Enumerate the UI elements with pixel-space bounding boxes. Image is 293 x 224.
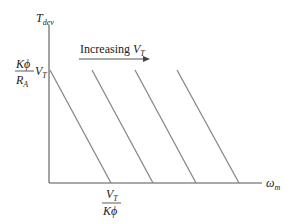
x-intercept-label: VT Kϕ	[102, 187, 121, 218]
svg-text:Kϕ: Kϕ	[15, 57, 30, 71]
svg-text:RA: RA	[15, 73, 28, 89]
annotation-label: Increasing VT	[80, 42, 145, 58]
svg-text:Kϕ: Kϕ	[102, 204, 117, 218]
y-axis-label: Tdev	[36, 11, 54, 27]
torque-speed-diagram: Increasing VT Tdev ωm Kϕ RA VT VT Kϕ	[0, 0, 293, 224]
y-intercept-label: Kϕ RA VT	[15, 57, 47, 89]
x-axis-label: ωm	[266, 176, 280, 192]
svg-text:VT: VT	[106, 187, 118, 203]
svg-text:VT: VT	[35, 64, 47, 80]
